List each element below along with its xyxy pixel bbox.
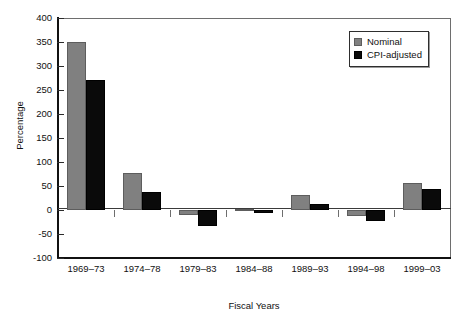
bar-cpi-adjusted	[198, 210, 217, 226]
x-category-label: 1984–88	[226, 263, 282, 274]
cpi-adjusted-swatch-icon	[354, 51, 362, 59]
x-category-label: 1974–78	[114, 263, 170, 274]
x-tick-mark	[170, 210, 171, 217]
bar-group	[282, 18, 338, 258]
y-tick-label: 50	[18, 181, 52, 191]
bar-cpi-adjusted	[422, 189, 441, 210]
legend-label: Nominal	[367, 37, 402, 47]
y-tick-label: 100	[18, 157, 52, 167]
bar-group	[114, 18, 170, 258]
bar-chart: Percentage 400350300250200150100500-50-1…	[0, 0, 461, 323]
x-category-label: 1989–93	[282, 263, 338, 274]
bar-nominal	[347, 210, 366, 216]
y-tick-label: 0	[18, 205, 52, 215]
x-axis-title: Fiscal Years	[57, 300, 451, 311]
y-tick-label: 200	[18, 109, 52, 119]
x-category-label: 1979–83	[170, 263, 226, 274]
x-category-label: 1999–03	[394, 263, 450, 274]
bar-group	[226, 18, 282, 258]
y-tick-label: 350	[18, 37, 52, 47]
legend-item-nominal: Nominal	[354, 36, 422, 48]
y-tick-mark	[57, 258, 64, 259]
y-tick-label: 150	[18, 133, 52, 143]
x-tick-mark	[114, 210, 115, 217]
legend: Nominal CPI-adjusted	[349, 31, 429, 67]
bar-nominal	[67, 42, 86, 210]
bar-nominal	[403, 183, 422, 210]
nominal-swatch-icon	[354, 38, 362, 46]
bar-cpi-adjusted	[366, 210, 385, 221]
bar-cpi-adjusted	[142, 192, 161, 210]
bar-nominal	[123, 173, 142, 210]
bar-nominal	[291, 195, 310, 210]
bar-cpi-adjusted	[310, 204, 329, 210]
y-tick-label: -50	[18, 229, 52, 239]
bar-group	[170, 18, 226, 258]
bar-cpi-adjusted	[86, 80, 105, 210]
y-tick-label: 250	[18, 85, 52, 95]
bar-cpi-adjusted	[254, 210, 273, 213]
legend-label: CPI-adjusted	[367, 50, 422, 60]
y-tick-label: 400	[18, 13, 52, 23]
x-tick-mark	[226, 210, 227, 217]
bar-nominal	[235, 209, 254, 211]
x-tick-mark	[394, 210, 395, 217]
x-category-label: 1994–98	[338, 263, 394, 274]
bar-nominal	[179, 210, 198, 215]
bar-group	[58, 18, 114, 258]
y-tick-label: 300	[18, 61, 52, 71]
legend-item-cpi-adjusted: CPI-adjusted	[354, 49, 422, 61]
x-tick-mark	[282, 210, 283, 217]
x-category-label: 1969–73	[58, 263, 114, 274]
y-tick-label: -100	[18, 253, 52, 263]
x-tick-mark	[338, 210, 339, 217]
